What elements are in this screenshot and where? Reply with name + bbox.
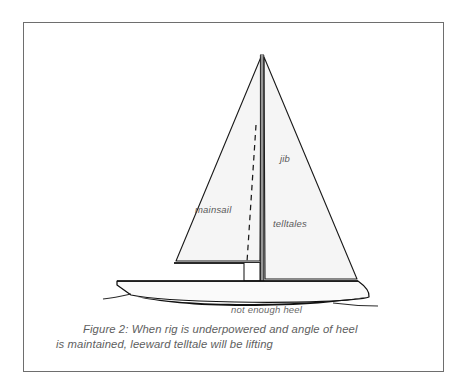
label-not-enough-heel: not enough heel [231, 304, 303, 315]
label-telltales: telltales [273, 218, 307, 229]
figure-caption: Figure 2: When rig is underpowered and a… [56, 322, 396, 351]
waterline-left [103, 294, 131, 299]
caption-line-1: Figure 2: When rig is underpowered and a… [56, 322, 396, 337]
mainsail-shape [176, 57, 261, 261]
waterline-right [333, 303, 378, 306]
figure-root: mainsail jib telltales not enough heel F… [0, 0, 467, 392]
jib-shape [264, 57, 357, 279]
hull-shape [117, 281, 369, 302]
cabin-box [244, 263, 260, 281]
caption-line-2: is maintained, leeward telltale will be … [56, 337, 396, 352]
label-mainsail: mainsail [195, 204, 232, 215]
label-jib: jib [278, 153, 290, 164]
